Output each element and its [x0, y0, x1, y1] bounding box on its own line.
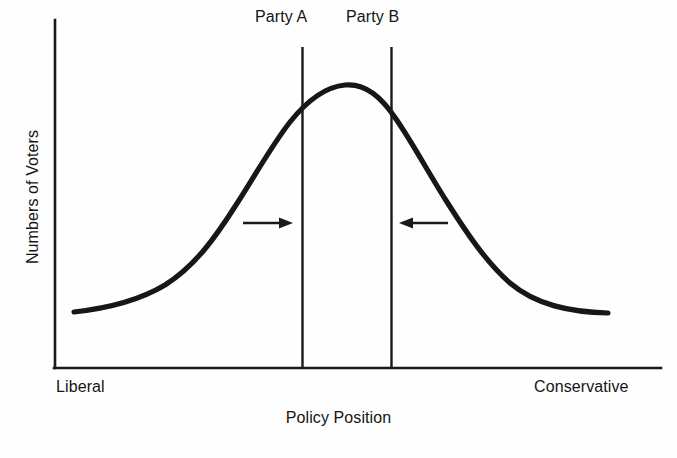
party-b-arrow-icon	[399, 218, 448, 229]
party-b-label: Party B	[346, 8, 399, 26]
y-axis-title: Numbers of Voters	[24, 97, 42, 297]
x-axis-tick-label-conservative: Conservative	[534, 378, 629, 396]
convergence-arrows-group	[243, 218, 448, 229]
party-a-label: Party A	[255, 8, 307, 26]
x-axis-title: Policy Position	[0, 409, 677, 427]
voter-distribution-curve-group	[74, 85, 608, 313]
median-voter-theorem-chart: Party A Party B Liberal Conservative Pol…	[0, 0, 677, 458]
party-a-arrow-icon	[243, 218, 293, 229]
axes-group	[54, 20, 661, 368]
voter-distribution-curve	[74, 85, 608, 313]
x-axis-tick-label-liberal: Liberal	[56, 378, 105, 396]
